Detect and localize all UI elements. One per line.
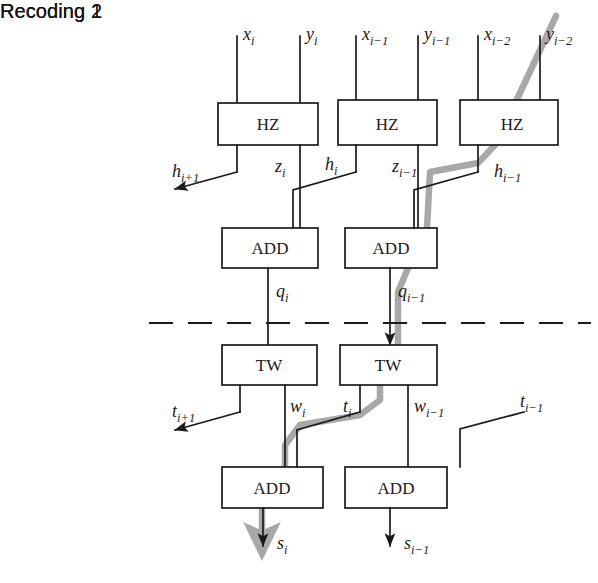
tw-label-col1: TW (256, 356, 283, 375)
label-t-i-plus-1: ti+1 (172, 401, 195, 425)
add-label-col2-stage1: ADD (373, 239, 410, 258)
label-z-i: zi (274, 156, 286, 180)
h-i-1-feedback-wire (414, 172, 478, 228)
label-x-i-2: xi−2 (483, 24, 510, 48)
label-y-i-1: yi−1 (422, 24, 450, 48)
label-x-i: xi (242, 24, 255, 48)
hz-label-col2: HZ (376, 115, 399, 134)
t-i-1-input-wire (460, 412, 524, 467)
label-q-i: qi (276, 281, 289, 305)
hz-label-col3: HZ (501, 115, 524, 134)
label-h-i-plus-1: hi+1 (172, 161, 199, 185)
label-z-i-1: zi−1 (391, 156, 417, 180)
label-h-i-1: hi−1 (494, 161, 521, 185)
add-label-col1-stage1: ADD (252, 239, 289, 258)
h-i-feedback-wire (293, 172, 356, 228)
hz-label-col1: HZ (257, 115, 280, 134)
add-label-col2-stage2: ADD (378, 479, 415, 498)
label-y-i: yi (304, 24, 318, 48)
recoding-pipeline-diagram: xi yi xi−1 yi−1 xi−2 yi−2 hi+1 zi hi zi−… (0, 0, 598, 583)
add-label-col1-stage2: ADD (254, 479, 291, 498)
label-s-i: si (277, 533, 288, 557)
tw-label-col2: TW (375, 356, 402, 375)
label-w-i: wi (290, 396, 306, 420)
label-h-i: hi (325, 154, 338, 178)
label-s-i-1: si−1 (404, 533, 429, 557)
label-x-i-1: xi−1 (361, 24, 388, 48)
label-y-i-2: yi−2 (544, 24, 572, 48)
label-w-i-1: wi−1 (414, 396, 444, 420)
t-i-feedback-wire (297, 412, 360, 467)
label-q-i-1: qi−1 (398, 281, 425, 305)
